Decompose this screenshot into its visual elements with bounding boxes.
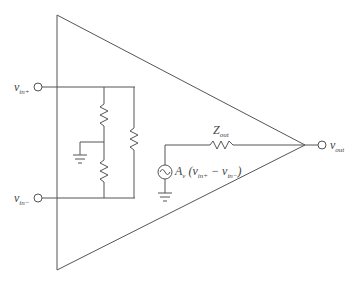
- dependent-source: [158, 165, 172, 179]
- source-expression: Av (vin+ − vin−): [175, 165, 242, 180]
- resistor-top: [100, 104, 108, 126]
- vin-plus-terminal: [34, 83, 42, 91]
- vin-minus-terminal: [34, 194, 42, 202]
- resistor-differential: [130, 128, 138, 150]
- vin-plus-label: vin+: [14, 81, 30, 96]
- resistor-zout: [210, 141, 233, 149]
- ground-source: [158, 193, 172, 201]
- vout-terminal: [318, 141, 326, 149]
- resistor-bottom: [100, 160, 108, 182]
- vout-label: vout: [330, 139, 344, 154]
- ground-input: [73, 155, 87, 163]
- vin-minus-label: vin−: [14, 192, 30, 207]
- circuit-diagram: [0, 0, 357, 284]
- zout-label: Zout: [213, 124, 229, 139]
